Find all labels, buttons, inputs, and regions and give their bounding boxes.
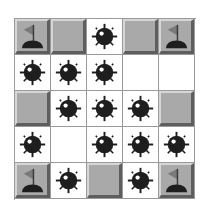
bomb-icon — [123, 163, 158, 198]
cell-r1-c4-tile[interactable] — [123, 19, 159, 55]
flag-icon — [159, 19, 194, 54]
cell-r5-c2-bomb — [51, 163, 87, 199]
bomb-icon — [87, 91, 122, 126]
unrevealed-tile[interactable] — [15, 91, 50, 126]
cell-r4-c4-bomb — [123, 127, 159, 163]
unrevealed-tile[interactable] — [87, 163, 122, 198]
cell-r3-c2-bomb — [51, 91, 87, 127]
cell-r2-c4-empty — [123, 55, 159, 91]
bomb-icon — [87, 19, 122, 54]
cell-r1-c5-flag[interactable] — [159, 19, 195, 55]
unrevealed-tile[interactable] — [123, 19, 158, 54]
bomb-icon — [123, 91, 158, 126]
bomb-icon — [51, 163, 86, 198]
bomb-icon — [159, 127, 194, 162]
bomb-icon — [123, 127, 158, 162]
unrevealed-tile[interactable] — [159, 91, 194, 126]
bomb-icon — [15, 55, 50, 90]
cell-r4-c5-bomb — [159, 127, 195, 163]
cell-r2-c1-bomb — [15, 55, 51, 91]
cell-r2-c2-bomb — [51, 55, 87, 91]
flag-icon — [159, 163, 194, 198]
bomb-icon — [87, 55, 122, 90]
cell-r3-c5-tile[interactable] — [159, 91, 195, 127]
bomb-icon — [15, 127, 50, 162]
game-board — [14, 18, 196, 200]
bomb-icon — [51, 55, 86, 90]
cell-r4-c2-empty — [51, 127, 87, 163]
cell-r5-c4-bomb — [123, 163, 159, 199]
unrevealed-tile[interactable] — [51, 19, 86, 54]
cell-r2-c5-empty — [159, 55, 195, 91]
bomb-icon — [87, 127, 122, 162]
flag-icon — [15, 163, 50, 198]
cell-r1-c3-bomb — [87, 19, 123, 55]
flag-icon — [15, 19, 50, 54]
cell-r3-c4-bomb — [123, 91, 159, 127]
cell-r5-c1-flag[interactable] — [15, 163, 51, 199]
cell-r4-c1-bomb — [15, 127, 51, 163]
cell-r5-c5-flag[interactable] — [159, 163, 195, 199]
cell-r4-c3-bomb — [87, 127, 123, 163]
cell-r3-c1-tile[interactable] — [15, 91, 51, 127]
cell-r1-c1-flag[interactable] — [15, 19, 51, 55]
cell-r5-c3-tile[interactable] — [87, 163, 123, 199]
cell-r3-c3-bomb — [87, 91, 123, 127]
cell-r2-c3-bomb — [87, 55, 123, 91]
bomb-icon — [51, 91, 86, 126]
cell-r1-c2-tile[interactable] — [51, 19, 87, 55]
